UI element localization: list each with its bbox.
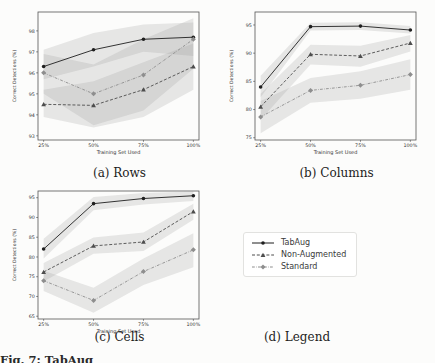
subfigure-columns: 758085909525%50%75%100%Training Set Used… (217, 0, 435, 181)
svg-text:25%: 25% (38, 143, 49, 148)
svg-text:100%: 100% (187, 143, 201, 148)
svg-text:65: 65 (29, 314, 35, 319)
svg-text:Correct Detections (%): Correct Detections (%) (229, 50, 234, 103)
legend-item-label: Standard (281, 262, 317, 271)
svg-text:75: 75 (246, 135, 252, 140)
legend-item-label: Non-Augmented (281, 250, 346, 259)
svg-text:75%: 75% (355, 143, 366, 148)
svg-text:85: 85 (246, 79, 252, 84)
svg-text:90: 90 (29, 215, 35, 220)
legend-box: TabAugNon-AugmentedStandard (243, 232, 357, 277)
svg-text:25%: 25% (255, 143, 266, 148)
svg-text:95: 95 (29, 92, 35, 97)
figure-caption-fragment: Fig. 7: TabAug (0, 354, 300, 363)
svg-text:80: 80 (29, 255, 35, 260)
svg-text:95: 95 (246, 23, 252, 28)
svg-text:94: 94 (29, 113, 35, 118)
svg-text:98: 98 (29, 29, 35, 34)
caption-columns: (b) Columns (225, 166, 430, 180)
svg-text:70: 70 (29, 294, 35, 299)
svg-text:Training Set Used: Training Set Used (313, 149, 358, 156)
svg-text:85: 85 (29, 235, 35, 240)
chart-columns: 758085909525%50%75%100%Training Set Used… (225, 6, 430, 164)
svg-text:50%: 50% (88, 143, 99, 148)
svg-text:90: 90 (246, 51, 252, 56)
chart-rows: 93949596979825%50%75%100%Training Set Us… (8, 6, 213, 164)
svg-text:Correct Detections (%): Correct Detections (%) (12, 50, 17, 103)
subfigure-cells: 6570758085909525%50%75%100%Training Set … (0, 181, 217, 363)
figure-root: 93949596979825%50%75%100%Training Set Us… (0, 0, 435, 363)
svg-text:75%: 75% (138, 322, 149, 327)
arows-plot-svg: 93949596979825%50%75%100%Training Set Us… (8, 6, 213, 164)
svg-text:100%: 100% (404, 143, 418, 148)
subfigure-grid: 93949596979825%50%75%100%Training Set Us… (0, 0, 435, 363)
svg-text:100%: 100% (187, 322, 201, 327)
caption-rows: (a) Rows (8, 166, 213, 180)
svg-text:50%: 50% (305, 143, 316, 148)
svg-text:50%: 50% (88, 322, 99, 327)
svg-text:93: 93 (29, 134, 35, 139)
chart-cells: 6570758085909525%50%75%100%Training Set … (8, 185, 213, 343)
svg-text:75%: 75% (138, 143, 149, 148)
legend-item-label: TabAug (281, 238, 310, 247)
svg-text:75: 75 (29, 274, 35, 279)
svg-text:95: 95 (29, 195, 35, 200)
legend-diamond-marker-icon (250, 257, 276, 276)
caption-legend: (d) Legend (217, 330, 377, 344)
caption-cells: (c) Cells (8, 330, 213, 344)
svg-text:97: 97 (29, 50, 35, 55)
svg-text:Correct Detections (%): Correct Detections (%) (12, 229, 17, 282)
svg-text:25%: 25% (38, 322, 49, 327)
ccells-plot-svg: 6570758085909525%50%75%100%Training Set … (8, 185, 213, 343)
svg-text:80: 80 (246, 107, 252, 112)
legend-item: Standard (250, 261, 346, 272)
svg-text:Training Set Used: Training Set Used (96, 149, 141, 156)
subfigure-rows: 93949596979825%50%75%100%Training Set Us… (0, 0, 217, 181)
svg-text:96: 96 (29, 71, 35, 76)
bcolumns-plot-svg: 758085909525%50%75%100%Training Set Used… (225, 6, 430, 164)
subfigure-legend: TabAugNon-AugmentedStandard (d) Legend (217, 181, 435, 363)
